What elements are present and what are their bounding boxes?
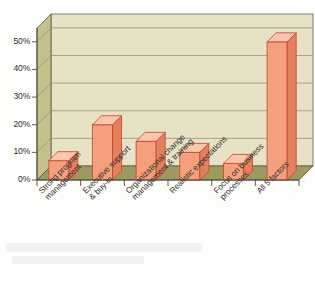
x-axis-category-label: Strong program management bbox=[37, 150, 90, 203]
x-axis-category-label: Organizational change management & train… bbox=[124, 131, 196, 203]
x-axis-category-labels: Strong program managementExecutive suppo… bbox=[0, 0, 315, 290]
column-chart: 0%10%20%30%40%50% Strong program managem… bbox=[0, 0, 315, 290]
